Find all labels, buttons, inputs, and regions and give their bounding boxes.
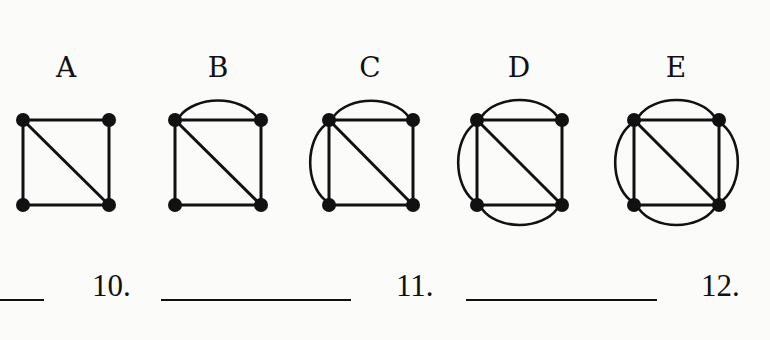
answer-blank-10[interactable] — [161, 299, 351, 301]
arc-left — [310, 125, 325, 200]
arc-left — [615, 125, 630, 200]
question-number-12: 12. — [701, 268, 740, 304]
question-number-11: 11. — [396, 268, 434, 304]
question-number-10: 10. — [92, 268, 131, 304]
arc-bottom — [639, 209, 714, 225]
arc-top — [639, 100, 714, 116]
answer-blank-9[interactable] — [0, 299, 44, 301]
arc-left — [458, 125, 473, 200]
arc-top — [180, 101, 256, 116]
graph-a — [23, 120, 109, 205]
graph-b — [175, 101, 261, 205]
answer-blank-11[interactable] — [466, 299, 657, 301]
arc-bottom — [482, 209, 557, 225]
arc-top — [482, 100, 557, 116]
arc-top — [334, 101, 408, 116]
graph-worksheet: A B C D E — [0, 0, 770, 340]
arc-right — [723, 125, 738, 200]
